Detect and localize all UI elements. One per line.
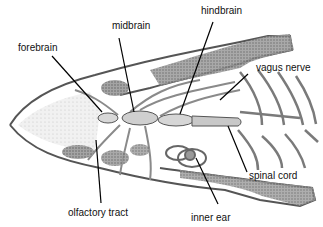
inner-ear-structure	[166, 146, 206, 167]
ribs	[238, 70, 318, 170]
label-midbrain: midbrain	[112, 20, 150, 31]
anatomy-figure: forebrain midbrain hindbrain vagus nerve…	[0, 0, 323, 227]
label-olfactory-tract: olfactory tract	[68, 207, 128, 218]
skull-brain-illustration	[0, 0, 323, 227]
nerves	[75, 80, 240, 180]
label-forebrain: forebrain	[18, 42, 57, 53]
leader-spinal-cord	[228, 126, 247, 172]
label-spinal-cord: spinal cord	[249, 170, 297, 181]
label-hindbrain: hindbrain	[201, 5, 242, 16]
leader-olfactory-tract	[96, 140, 101, 203]
label-vagus-nerve: vagus nerve	[256, 62, 310, 73]
brain	[98, 111, 241, 126]
label-inner-ear: inner ear	[191, 212, 230, 223]
leader-vagus-nerve	[220, 74, 248, 100]
leader-midbrain	[119, 38, 134, 112]
